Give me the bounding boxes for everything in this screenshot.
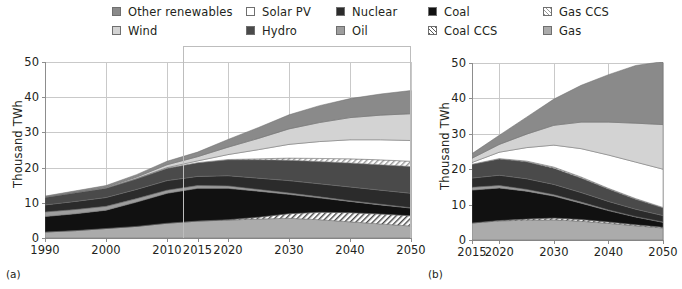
panel-tag-panel-b: (b) xyxy=(428,268,443,280)
stacked-area-plot xyxy=(0,0,682,289)
figure-root: Other renewablesWindSolar PVHydroNuclear… xyxy=(0,0,682,289)
chart-panel-panel-b: Thousand TWh0102030405020152020203020402… xyxy=(0,0,682,289)
